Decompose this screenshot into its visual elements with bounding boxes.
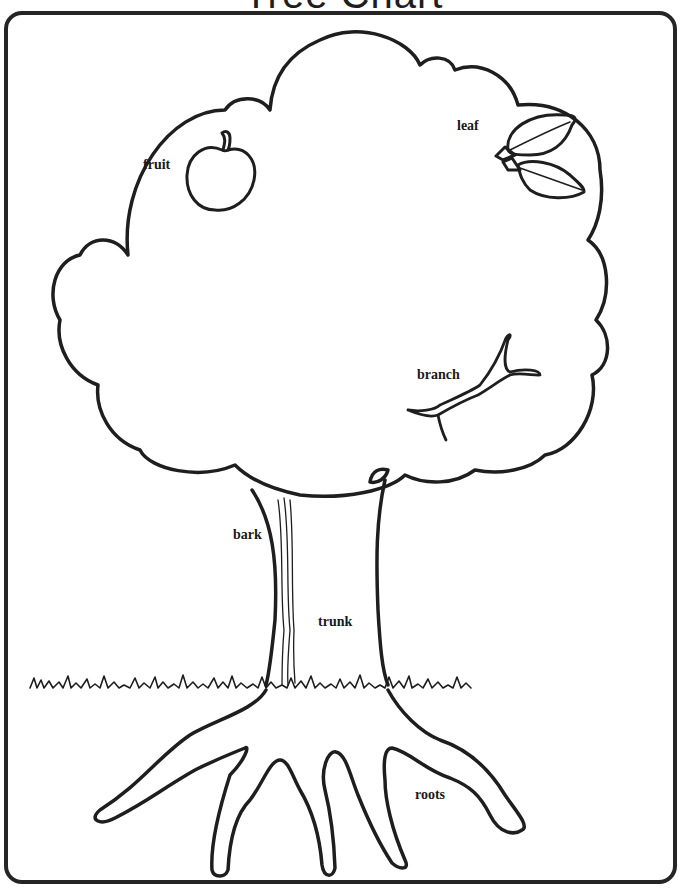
tree-illustration xyxy=(0,0,687,891)
label-trunk: trunk xyxy=(318,614,352,630)
label-branch: branch xyxy=(417,367,460,383)
canopy-outline xyxy=(53,32,608,496)
apple-icon xyxy=(187,132,255,211)
label-roots: roots xyxy=(415,787,445,803)
branch-icon xyxy=(408,335,540,440)
label-bark: bark xyxy=(233,527,262,543)
label-fruit: fruit xyxy=(143,157,170,173)
leaf-icon xyxy=(496,115,584,198)
trunk-right-edge xyxy=(377,480,388,685)
grass-line xyxy=(30,675,471,688)
trunk-left-edge xyxy=(252,490,276,685)
roots-outline xyxy=(95,690,524,876)
label-leaf: leaf xyxy=(457,118,479,134)
bark-lines xyxy=(278,498,295,685)
